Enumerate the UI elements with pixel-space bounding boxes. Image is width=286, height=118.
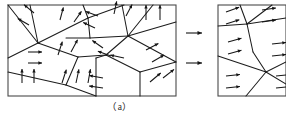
arrow-head-icon [198, 61, 203, 65]
transition-arrow-bottom [186, 61, 202, 65]
right-panel-frame [218, 5, 286, 96]
figure-root: （a） [0, 0, 286, 118]
figure-caption: （a） [107, 101, 132, 112]
transition-arrow-top [186, 31, 202, 35]
right-panel [218, 5, 286, 96]
transition-arrows [186, 31, 202, 65]
figure-canvas: （a） [0, 0, 286, 118]
arrow-head-icon [198, 31, 203, 35]
left-panel [8, 1, 176, 96]
